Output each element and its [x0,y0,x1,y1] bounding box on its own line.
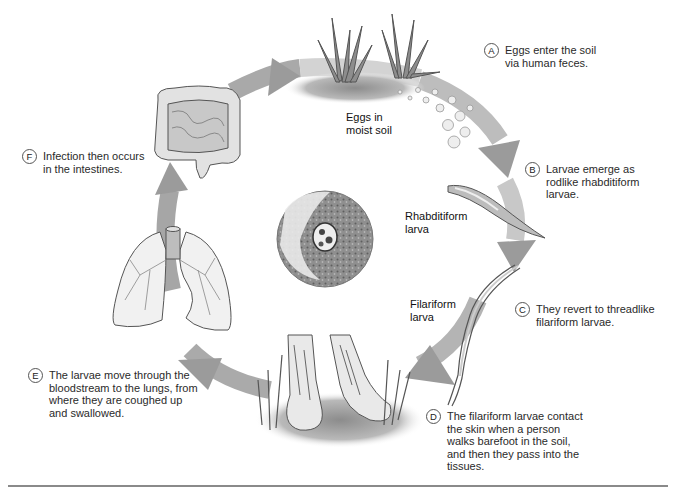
step-c: C They revert to threadlike filariform l… [515,303,655,328]
label-rhabditiform-larva: Rhabditiform larva [405,210,467,235]
step-f: F Infection then occurs in the intestine… [22,150,145,175]
step-d-text: The filariform larvae contact the skin w… [447,410,583,473]
step-e-text: The larvae move through the bloodstream … [49,369,198,419]
step-a: A Eggs enter the soil via human feces. [484,44,596,69]
step-e: E The larvae move through the bloodstrea… [28,369,198,419]
step-d-badge: D [426,409,441,424]
step-a-text: Eggs enter the soil via human feces. [505,44,596,69]
step-d: D The filariform larvae contact the skin… [426,410,583,473]
label-eggs-in-moist-soil: Eggs in moist soil [346,111,392,136]
step-c-text: They revert to threadlike filariform lar… [536,303,655,328]
step-a-badge: A [484,43,499,58]
arrowhead-f [155,162,188,195]
step-b-badge: B [525,162,540,177]
step-b: B Larvae emerge as rodlike rhabditiform … [525,163,640,201]
step-f-badge: F [22,149,37,164]
bare-feet-icon [255,335,425,448]
intestines-icon [155,86,240,178]
step-c-badge: C [515,302,530,317]
step-b-text: Larvae emerge as rodlike rhabditiform la… [546,163,640,201]
bottom-rule [8,485,668,487]
step-f-text: Infection then occurs in the intestines. [43,150,145,175]
label-filariform-larva: Filariform larva [410,298,456,323]
step-e-badge: E [28,368,43,383]
micrograph-icon [277,191,373,287]
arrowhead-b [478,140,520,178]
